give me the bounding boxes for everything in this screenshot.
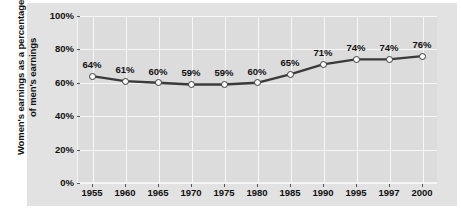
x-axis-tick-mark xyxy=(290,184,291,187)
x-axis-tick-mark xyxy=(257,184,258,187)
gridline-vertical xyxy=(324,16,325,182)
data-point-label: 65% xyxy=(270,57,310,68)
data-point-marker xyxy=(254,79,261,86)
data-point-marker xyxy=(353,56,360,63)
data-point-marker xyxy=(221,81,228,88)
x-axis-tick-mark xyxy=(422,184,423,187)
y-axis-tick-label: 100% xyxy=(28,10,74,21)
y-axis-tick-label: 20% xyxy=(28,144,74,155)
y-axis-tick-label: 0% xyxy=(28,177,74,188)
gridline-vertical xyxy=(192,16,193,182)
gridline-vertical xyxy=(159,16,160,182)
y-axis-title-line-1: Women's earnings as a percentage xyxy=(15,0,26,155)
gridline-vertical xyxy=(291,16,292,182)
x-axis-tick-mark xyxy=(125,184,126,187)
x-axis-tick-mark xyxy=(92,184,93,187)
data-point-marker xyxy=(287,71,294,78)
data-point-marker xyxy=(320,61,327,68)
y-axis-tick-mark xyxy=(77,83,80,84)
y-axis-tick-mark xyxy=(77,150,80,151)
data-point-marker xyxy=(155,79,162,86)
x-axis-tick-label: 2000 xyxy=(402,187,442,198)
x-axis-tick-mark xyxy=(389,184,390,187)
data-point-marker xyxy=(188,81,195,88)
data-point-marker xyxy=(89,73,96,80)
y-axis-tick-mark xyxy=(77,16,80,17)
x-axis-tick-mark xyxy=(356,184,357,187)
gridline-vertical xyxy=(225,16,226,182)
y-axis-tick-label: 40% xyxy=(28,110,74,121)
gridline-vertical xyxy=(93,16,94,182)
y-axis-tick-mark xyxy=(77,116,80,117)
x-axis-tick-mark xyxy=(191,184,192,187)
gridline-vertical xyxy=(357,16,358,182)
gridline-vertical xyxy=(126,16,127,182)
x-axis-tick-mark xyxy=(224,184,225,187)
chart-container: Women's earnings as a percentage of men'… xyxy=(0,0,461,211)
y-axis-tick-label: 80% xyxy=(28,43,74,54)
y-axis-tick-labels: 0%20%40%60%80%100% xyxy=(26,16,74,183)
data-point-label: 76% xyxy=(402,39,442,50)
x-axis-tick-mark xyxy=(323,184,324,187)
y-axis-tick-mark xyxy=(77,49,80,50)
data-point-marker xyxy=(419,53,426,60)
data-point-marker xyxy=(122,78,129,85)
plot-area xyxy=(77,16,437,183)
y-axis-tick-label: 60% xyxy=(28,77,74,88)
gridline-vertical xyxy=(390,16,391,182)
y-axis-tick-mark xyxy=(77,183,80,184)
data-point-marker xyxy=(386,56,393,63)
x-axis-tick-mark xyxy=(158,184,159,187)
gridline-vertical xyxy=(258,16,259,182)
